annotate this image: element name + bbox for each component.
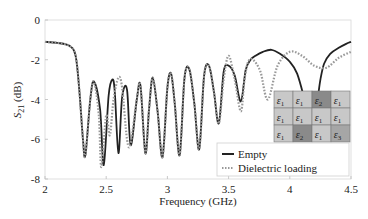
x-tick-label: 2.5 <box>99 183 113 195</box>
y-tick-label: -4 <box>31 94 41 106</box>
legend: Empty Dielectric loading <box>217 143 349 176</box>
permittivity-grid-inset: ε1ε1ε2ε1ε1ε1ε1ε1ε1ε2ε1ε3 <box>274 91 350 142</box>
y-tick-label: -8 <box>31 173 41 185</box>
y-tick-label: -2 <box>31 54 40 66</box>
s21-chart: 0-2-4-6-8 22.533.544.5 ε1ε1ε2ε1ε1ε1ε1ε1ε… <box>0 0 368 219</box>
x-tick-label: 4.5 <box>344 183 358 195</box>
plot-area: 0-2-4-6-8 22.533.544.5 ε1ε1ε2ε1ε1ε1ε1ε1ε… <box>31 14 359 195</box>
y-tick-label: -6 <box>31 133 41 145</box>
x-axis-label: Frequency (GHz) <box>159 195 237 208</box>
x-tick-label: 3 <box>165 183 171 195</box>
x-tick-label: 3.5 <box>222 183 236 195</box>
legend-label-empty: Empty <box>238 148 268 160</box>
y-tick-label: 0 <box>35 14 41 26</box>
x-tick-label: 2 <box>42 183 48 195</box>
x-tick-label: 4 <box>287 183 293 195</box>
legend-label-dielectric: Dielectric loading <box>238 162 318 174</box>
y-axis-label: S21 (dB) <box>11 81 26 118</box>
